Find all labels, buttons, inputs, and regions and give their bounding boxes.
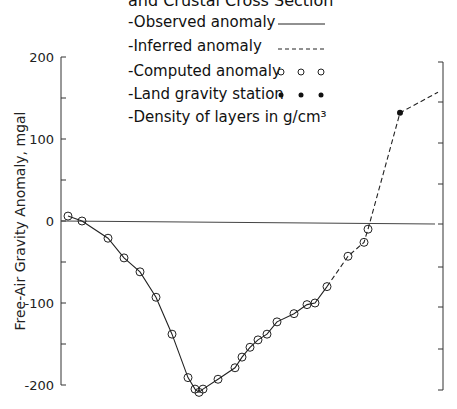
computed-anomaly-point <box>64 212 72 220</box>
computed-anomaly-point <box>303 301 311 309</box>
legend: -Observed anomaly -Inferred anomaly -Com… <box>128 13 327 126</box>
computed-anomaly-point <box>78 217 86 225</box>
tick-minus-200: -200 <box>24 378 54 393</box>
legend-inferred-label: -Inferred anomaly <box>128 37 262 55</box>
computed-anomaly-point <box>311 299 319 307</box>
legend-open-circle-icon <box>278 69 324 75</box>
computed-anomaly-point <box>120 254 128 262</box>
tick-200: 200 <box>29 50 54 65</box>
computed-anomaly-point <box>273 318 281 326</box>
computed-anomaly-point <box>214 375 222 383</box>
computed-anomaly-point <box>364 225 372 233</box>
data-series <box>64 92 438 396</box>
computed-anomaly-point <box>238 353 246 361</box>
inferred-anomaly-line <box>327 92 438 286</box>
computed-anomaly-point <box>323 283 331 291</box>
computed-anomaly-point <box>104 234 112 242</box>
computed-anomaly-point <box>136 268 144 276</box>
tick-0: 0 <box>46 214 54 229</box>
computed-anomaly-point <box>246 343 254 351</box>
chart-title: and Crustal Cross Section <box>128 0 333 10</box>
tick-minus-100: -100 <box>24 296 54 311</box>
legend-observed-label: -Observed anomaly <box>128 13 276 31</box>
computed-anomaly-point <box>344 252 352 260</box>
legend-density-label: -Density of layers in g/cm³ <box>128 108 327 126</box>
land-gravity-station-point <box>397 110 403 116</box>
gravity-anomaly-chart: and Crustal Cross Section -Observed anom… <box>0 0 457 409</box>
computed-anomaly-point <box>184 374 192 382</box>
legend-station-label: -Land gravity station <box>128 85 284 103</box>
computed-anomaly-point <box>263 330 271 338</box>
computed-anomaly-point <box>199 385 207 393</box>
y-tick-labels: 200 100 0 -100 -200 <box>24 50 54 393</box>
computed-anomaly-point <box>360 238 368 246</box>
zero-baseline <box>61 221 435 224</box>
computed-anomaly-point <box>152 293 160 301</box>
legend-filled-circle-icon <box>279 93 324 98</box>
computed-anomaly-point <box>290 310 298 318</box>
computed-anomaly-point <box>168 330 176 338</box>
computed-anomaly-point <box>231 364 239 372</box>
legend-computed-label: -Computed anomaly <box>128 62 281 80</box>
tick-100: 100 <box>29 132 54 147</box>
right-y-axis <box>438 62 443 390</box>
computed-anomaly-point <box>254 336 262 344</box>
